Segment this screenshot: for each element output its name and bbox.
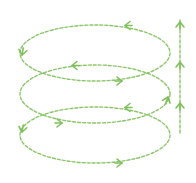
up-arrow-icon [176, 62, 184, 69]
up-arrow-icon [176, 103, 184, 110]
left-arrow-icon [72, 62, 79, 70]
up-arrow-icon [176, 22, 184, 29]
loop-bottom [20, 107, 170, 163]
right-arrow-icon [115, 77, 122, 85]
down-arrow-icon [18, 124, 27, 132]
right-arrow-icon [115, 159, 122, 167]
spiral-loops [18, 22, 172, 168]
spiral-diagram [0, 0, 196, 183]
vertical-up-arrow-line [176, 20, 184, 135]
down-arrow-icon [18, 47, 27, 55]
